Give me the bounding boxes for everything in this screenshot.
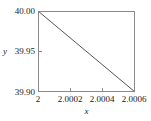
chart-figure: 40.00 39.95 39.90 y 2 2.0002 2.0004 2.00… (0, 0, 151, 121)
x-tick-mark-2 (38, 88, 39, 92)
y-tick-label-mid: 39.95 (15, 47, 35, 56)
data-line-layer (38, 11, 135, 92)
data-line-series-0 (38, 11, 135, 92)
y-tick-mark-40.00 (38, 11, 42, 12)
x-tick-mark-2.0004 (102, 88, 103, 92)
x-tick-label-2: 2.0004 (84, 95, 120, 104)
x-tick-mark-2.0002 (70, 88, 71, 92)
y-tick-label-group: 40.00 39.95 39.90 (0, 0, 35, 121)
y-tick-label-top: 40.00 (15, 7, 35, 16)
y-tick-label-bottom: 39.90 (15, 88, 35, 97)
x-tick-label-1: 2.0002 (52, 95, 88, 104)
x-axis-title: x (38, 107, 135, 116)
x-tick-label-3: 2.0006 (116, 95, 151, 104)
y-tick-mark-39.95 (38, 51, 42, 52)
x-tick-mark-2.0006 (134, 88, 135, 92)
y-axis-title: y (3, 47, 7, 56)
x-tick-label-0: 2 (33, 95, 43, 104)
